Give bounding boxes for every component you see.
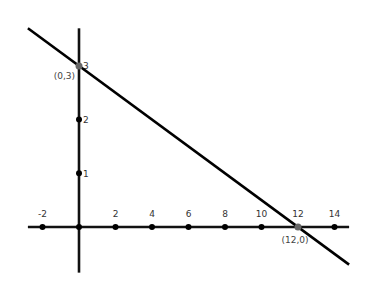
x-tick-point	[40, 224, 46, 230]
x-tick-label: -2	[38, 209, 47, 219]
y-tick-label: 2	[83, 115, 89, 125]
x-tick-label: 6	[186, 209, 192, 219]
intercept-point	[76, 62, 83, 69]
intercept-label-y: (0,3)	[54, 71, 75, 81]
y-tick-label: 1	[83, 169, 89, 179]
y-tick-point	[76, 117, 82, 123]
intercept-annotations: (0,3)(12,0)	[54, 62, 309, 245]
coordinate-plane: -22468101214123 (0,3)(12,0)	[0, 0, 370, 289]
x-tick-label: 2	[113, 209, 119, 219]
x-tick-point	[113, 224, 119, 230]
x-tick-label: 14	[329, 209, 341, 219]
x-tick-point	[149, 224, 155, 230]
y-tick-point	[76, 170, 82, 176]
x-tick-point	[222, 224, 228, 230]
x-tick-label: 10	[256, 209, 268, 219]
intercept-label-x: (12,0)	[281, 235, 308, 245]
x-tick-point	[259, 224, 265, 230]
intercept-point	[295, 224, 302, 231]
x-tick-label: 12	[292, 209, 303, 219]
x-tick-label: 4	[149, 209, 155, 219]
x-tick-point	[332, 224, 338, 230]
x-tick-label: 8	[222, 209, 228, 219]
x-tick-point	[76, 224, 82, 230]
x-tick-point	[186, 224, 192, 230]
